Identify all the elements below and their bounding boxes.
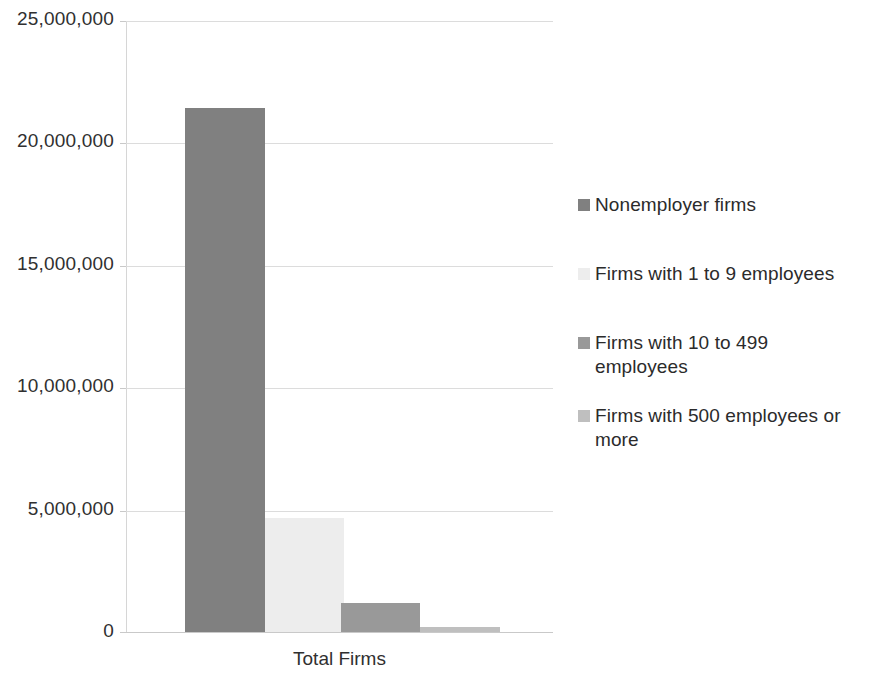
y-tick-0 bbox=[120, 632, 126, 633]
legend-swatch-icon-nonemployer-firms bbox=[578, 199, 590, 211]
gridline-25000000 bbox=[126, 21, 553, 22]
bar-nonemployer-firms bbox=[185, 108, 265, 632]
y-tick-label-25000000: 25,000,000 bbox=[0, 8, 114, 30]
y-tick-label-10000000: 10,000,000 bbox=[0, 375, 114, 397]
y-tick-5000000 bbox=[120, 511, 126, 512]
y-tick-15000000 bbox=[120, 266, 126, 267]
bar-firms-1-to-9-employees bbox=[265, 518, 344, 632]
y-tick-25000000 bbox=[120, 21, 126, 22]
legend-item-firms-10-to-499-employees[interactable]: Firms with 10 to 499 employees bbox=[578, 331, 874, 379]
plot-area bbox=[126, 21, 553, 633]
y-tick-10000000 bbox=[120, 388, 126, 389]
bar-firms-10-to-499-employees bbox=[341, 603, 420, 632]
bar-firms-500-or-more-employees bbox=[420, 627, 500, 632]
bar-chart: 25,000,000 20,000,000 15,000,000 10,000,… bbox=[0, 0, 877, 674]
y-tick-label-15000000: 15,000,000 bbox=[0, 253, 114, 275]
y-axis-line bbox=[126, 21, 127, 633]
y-tick-label-5000000: 5,000,000 bbox=[0, 498, 114, 520]
legend-label-firms-1-to-9-employees: Firms with 1 to 9 employees bbox=[595, 262, 834, 286]
x-axis-title: Total Firms bbox=[126, 648, 553, 670]
legend-swatch-icon-firms-500-or-more-employees bbox=[578, 410, 590, 422]
legend-label-firms-10-to-499-employees: Firms with 10 to 499 employees bbox=[595, 331, 775, 379]
legend-swatch-icon-firms-1-to-9-employees bbox=[578, 268, 590, 280]
legend-label-firms-500-or-more-employees: Firms with 500 employees or more bbox=[595, 404, 867, 452]
x-axis-line bbox=[126, 632, 553, 633]
y-tick-label-0: 0 bbox=[0, 620, 114, 642]
y-tick-label-20000000: 20,000,000 bbox=[0, 130, 114, 152]
legend-item-firms-1-to-9-employees[interactable]: Firms with 1 to 9 employees bbox=[578, 262, 874, 286]
legend-item-firms-500-or-more-employees[interactable]: Firms with 500 employees or more bbox=[578, 404, 874, 452]
legend-swatch-icon-firms-10-to-499-employees bbox=[578, 337, 590, 349]
legend-label-nonemployer-firms: Nonemployer firms bbox=[595, 193, 756, 217]
y-tick-20000000 bbox=[120, 143, 126, 144]
y-axis-labels: 25,000,000 20,000,000 15,000,000 10,000,… bbox=[0, 0, 114, 674]
legend-item-nonemployer-firms[interactable]: Nonemployer firms bbox=[578, 193, 874, 217]
